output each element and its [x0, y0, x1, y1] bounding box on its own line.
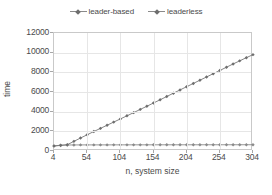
- x-tick-mark: [219, 150, 220, 153]
- data-point-marker: [139, 108, 142, 111]
- data-point-marker: [145, 105, 148, 108]
- data-point-marker: [132, 143, 135, 146]
- x-tick-mark: [119, 150, 120, 153]
- x-tick-mark: [252, 150, 253, 153]
- gridline-vertical: [187, 33, 188, 149]
- data-point-marker: [158, 98, 161, 101]
- data-point-marker: [52, 144, 55, 147]
- data-point-marker: [245, 56, 248, 59]
- data-point-marker: [198, 79, 201, 82]
- data-point-marker: [158, 143, 161, 146]
- data-point-marker: [99, 127, 102, 130]
- data-point-marker: [59, 144, 62, 147]
- data-point-marker: [99, 143, 102, 146]
- y-tick-mark: [50, 32, 53, 33]
- x-axis-tick-labels: 454104154204254304: [53, 153, 252, 165]
- gridline-horizontal: [54, 131, 251, 132]
- data-point-marker: [72, 143, 75, 146]
- x-tick-label: 304: [232, 153, 272, 162]
- legend-label-leader-based: leader-based: [89, 7, 135, 16]
- data-point-marker: [165, 95, 168, 98]
- legend-marker-leaderless-icon: [148, 8, 165, 15]
- x-axis-title: n, system size: [53, 166, 252, 176]
- data-point-marker: [205, 143, 208, 146]
- legend-entry-leader-based: leader-based: [70, 7, 135, 16]
- line-chart-figure: leader-based leaderless 1200010000800060…: [0, 0, 272, 195]
- legend-entry-leaderless: leaderless: [148, 7, 202, 16]
- data-point-marker: [225, 143, 228, 146]
- data-point-marker: [145, 143, 148, 146]
- data-point-marker: [231, 143, 234, 146]
- y-tick-mark: [50, 52, 53, 53]
- data-point-marker: [92, 143, 95, 146]
- legend-label-leaderless: leaderless: [167, 7, 202, 16]
- data-point-marker: [178, 143, 181, 146]
- data-point-marker: [205, 75, 208, 78]
- gridline-horizontal: [54, 53, 251, 54]
- data-point-marker: [112, 120, 115, 123]
- gridline-vertical: [120, 33, 121, 149]
- y-tick-label: 12000: [3, 28, 49, 37]
- data-point-marker: [231, 62, 234, 65]
- y-tick-mark: [50, 91, 53, 92]
- data-point-marker: [72, 140, 75, 143]
- y-tick-label: 10000: [3, 47, 49, 56]
- x-tick-mark: [86, 150, 87, 153]
- data-point-marker: [212, 143, 215, 146]
- gridline-vertical: [154, 33, 155, 149]
- data-point-marker: [105, 124, 108, 127]
- data-point-marker: [125, 114, 128, 117]
- gridline-vertical: [87, 33, 88, 149]
- data-point-marker: [251, 53, 254, 56]
- data-point-marker: [165, 143, 168, 146]
- gridline-horizontal: [54, 72, 251, 73]
- data-point-marker: [112, 143, 115, 146]
- data-point-marker: [238, 59, 241, 62]
- x-tick-mark: [53, 150, 54, 153]
- data-point-marker: [238, 143, 241, 146]
- data-point-marker: [225, 66, 228, 69]
- plot-area: [53, 32, 252, 150]
- y-tick-mark: [50, 111, 53, 112]
- data-point-marker: [245, 143, 248, 146]
- data-point-marker: [172, 143, 175, 146]
- data-point-marker: [192, 143, 195, 146]
- gridline-vertical: [220, 33, 221, 149]
- data-point-marker: [66, 143, 69, 146]
- x-tick-mark: [186, 150, 187, 153]
- gridline-horizontal: [54, 92, 251, 93]
- y-tick-label: 2000: [3, 126, 49, 135]
- data-point-marker: [198, 143, 201, 146]
- legend-marker-leader-based-icon: [70, 8, 87, 15]
- data-point-marker: [79, 143, 82, 146]
- x-tick-mark: [153, 150, 154, 153]
- data-point-marker: [139, 143, 142, 146]
- data-point-marker: [192, 82, 195, 85]
- data-point-marker: [105, 143, 108, 146]
- data-point-marker: [251, 143, 254, 146]
- data-point-marker: [125, 143, 128, 146]
- y-axis-title: time: [2, 69, 12, 109]
- gridline-horizontal: [54, 112, 251, 113]
- y-tick-mark: [50, 71, 53, 72]
- data-point-marker: [79, 136, 82, 139]
- y-tick-mark: [50, 130, 53, 131]
